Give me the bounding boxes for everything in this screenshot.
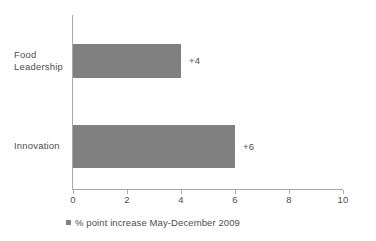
legend-swatch-icon [66,220,71,225]
category-label-line: Innovation [14,140,70,153]
x-axis-tick-label: 0 [70,194,75,205]
bar-value-food-leadership: +4 [189,55,200,66]
x-axis-tick-label: 6 [232,194,237,205]
x-axis-tick-label: 10 [338,194,349,205]
category-label-line: Leadership [14,61,70,74]
bar-food-leadership [73,44,181,78]
category-label-food-leadership: Food Leadership [14,49,70,74]
x-axis-tick-label: 4 [178,194,183,205]
x-axis-tick-label: 8 [286,194,291,205]
category-label-line: Food [14,49,70,62]
x-axis-tick-label: 2 [124,194,129,205]
legend-label: % point increase May-December 2009 [75,217,240,228]
category-label-innovation: Innovation [14,140,70,153]
bar-chart: Food Leadership Innovation +4 +6 0246810… [0,0,376,241]
bar-value-innovation: +6 [243,141,254,152]
chart-legend: % point increase May-December 2009 [66,217,240,228]
x-axis-line [73,189,343,190]
bar-innovation [73,125,235,168]
